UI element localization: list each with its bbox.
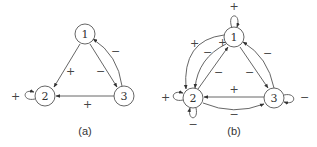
edge-sign: − xyxy=(245,66,254,79)
node-3: 3 xyxy=(264,88,284,108)
edge-sign: − xyxy=(203,46,212,59)
panel-b: + + + − − − − + − + − − xyxy=(161,0,309,137)
edge-sign: + xyxy=(229,83,238,96)
edge-b-2-self-loop-left xyxy=(173,92,183,100)
edge-sign: + xyxy=(66,65,75,78)
edge-b-2-self-loop-bottom xyxy=(190,108,197,118)
node-2: 2 xyxy=(183,88,203,108)
edge-sign: + xyxy=(11,90,20,103)
svg-text:2: 2 xyxy=(190,92,197,105)
signed-graph-figure: + − − + + 1 2 3 (a) + xyxy=(0,0,317,147)
edge-sign: + xyxy=(229,0,238,13)
panel-a: + − − + + 1 2 3 (a) xyxy=(11,24,134,137)
svg-text:1: 1 xyxy=(231,31,238,44)
edge-sign: − xyxy=(263,47,272,60)
svg-text:3: 3 xyxy=(121,90,128,103)
node-3: 3 xyxy=(114,86,134,106)
edge-sign: + xyxy=(161,91,170,104)
panel-caption-b: (b) xyxy=(227,125,240,137)
panel-caption-a: (a) xyxy=(78,125,91,137)
edge-sign: − xyxy=(96,65,105,78)
edge-sign: − xyxy=(214,66,223,79)
svg-text:1: 1 xyxy=(82,28,89,41)
svg-text:2: 2 xyxy=(42,90,49,103)
edge-sign: − xyxy=(300,91,309,104)
edge-sign: + xyxy=(190,37,199,50)
node-1: 1 xyxy=(75,24,95,44)
edge-sign: − xyxy=(188,118,197,131)
edge-a-2-self-loop xyxy=(25,91,35,99)
edge-sign: − xyxy=(111,45,120,58)
edge-b-1-self-loop xyxy=(231,16,238,28)
node-2: 2 xyxy=(35,86,55,106)
edge-b-3-self-loop xyxy=(284,95,294,103)
edge-sign: − xyxy=(229,108,238,121)
node-1: 1 xyxy=(224,27,244,47)
edge-sign: + xyxy=(83,98,92,111)
svg-text:3: 3 xyxy=(271,92,278,105)
